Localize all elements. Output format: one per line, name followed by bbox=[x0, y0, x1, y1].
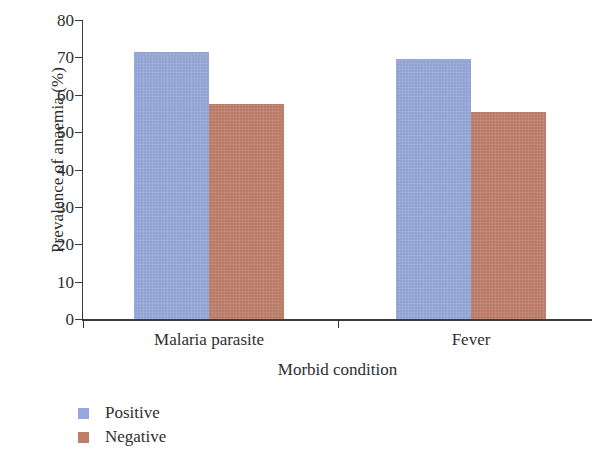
y-axis-tick-mark bbox=[75, 170, 83, 171]
y-axis-tick-label: 30 bbox=[30, 198, 74, 215]
y-axis-tick-label: 10 bbox=[30, 273, 74, 290]
x-axis-tick-mark bbox=[83, 321, 84, 328]
y-axis-tick-mark bbox=[75, 244, 83, 245]
bar-negative-malaria-parasite bbox=[209, 104, 284, 319]
bar-positive-malaria-parasite bbox=[134, 52, 209, 319]
y-axis-tick-mark bbox=[75, 207, 83, 208]
y-axis-tick-label: 0 bbox=[30, 311, 74, 328]
bar-positive-fever bbox=[396, 59, 471, 319]
legend-item: Negative bbox=[78, 425, 166, 449]
y-axis-tick-mark bbox=[75, 282, 83, 283]
y-axis-tick-mark bbox=[75, 20, 83, 21]
y-axis-tick-label: 40 bbox=[30, 161, 74, 178]
bar-chart-figure: Prevalence of anaemia (%) 01020304050607… bbox=[0, 0, 592, 451]
y-axis-tick-mark bbox=[75, 57, 83, 58]
legend-swatch-icon bbox=[78, 432, 89, 443]
legend-label: Negative bbox=[105, 427, 166, 447]
y-axis-tick-label: 80 bbox=[30, 12, 74, 29]
y-axis-tick-label: 50 bbox=[30, 124, 74, 141]
x-axis-category-label: Fever bbox=[351, 330, 591, 350]
y-axis-tick-mark bbox=[75, 132, 83, 133]
y-axis-tick-mark bbox=[75, 95, 83, 96]
legend-item: Positive bbox=[78, 401, 166, 425]
x-axis-line bbox=[82, 319, 592, 321]
y-axis-tick-mark bbox=[75, 319, 83, 320]
x-axis-category-label: Malaria parasite bbox=[89, 330, 329, 350]
x-axis-tick-mark bbox=[338, 321, 339, 328]
y-axis-tick-label: 20 bbox=[30, 236, 74, 253]
chart-legend: PositiveNegative bbox=[78, 401, 166, 449]
y-axis-tick-label: 60 bbox=[30, 86, 74, 103]
y-axis-tick-labels: 01020304050607080 bbox=[30, 0, 74, 451]
legend-swatch-icon bbox=[78, 408, 89, 419]
legend-label: Positive bbox=[105, 403, 160, 423]
y-axis-tick-label: 70 bbox=[30, 49, 74, 66]
plot-area bbox=[83, 20, 592, 319]
bar-negative-fever bbox=[471, 112, 546, 319]
x-axis-title: Morbid condition bbox=[83, 360, 592, 380]
